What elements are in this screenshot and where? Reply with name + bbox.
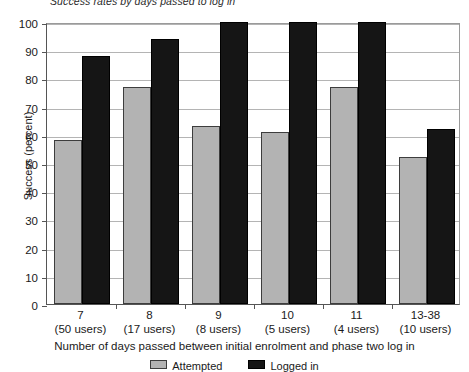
y-tick-label: 80: [8, 74, 38, 86]
x-tick-category: 7: [46, 309, 115, 323]
bar-attempted-13-38[interactable]: [399, 157, 427, 304]
bar-group: [392, 24, 461, 304]
legend-item-logged-in[interactable]: Logged in: [248, 360, 318, 372]
x-axis-title: Number of days passed between initial en…: [0, 340, 469, 352]
y-tick-label: 90: [8, 46, 38, 58]
bar-attempted-11[interactable]: [330, 87, 358, 304]
y-tick-label: 70: [8, 103, 38, 115]
bar-group: [323, 24, 392, 304]
bar-logged-in-8[interactable]: [151, 39, 179, 304]
x-tick-label-9: 9(8 users): [184, 309, 253, 336]
y-tick-label: 20: [8, 244, 38, 256]
x-tick-user-count: (50 users): [46, 323, 115, 337]
y-axis-title: Success (percent): [22, 76, 34, 236]
bar-group: [254, 24, 323, 304]
x-tick-label-13-38: 13-38(10 users): [391, 309, 460, 336]
x-tick-label-11: 11(4 users): [322, 309, 391, 336]
legend-item-attempted[interactable]: Attempted: [150, 360, 222, 372]
chart-title: Success rates by days passed to log in: [50, 0, 235, 7]
bar-group: [47, 24, 116, 304]
y-tick-mark: [42, 306, 47, 307]
y-tick-label: 100: [8, 18, 38, 30]
bar-group: [116, 24, 185, 304]
bar-logged-in-7[interactable]: [82, 56, 110, 304]
bar-logged-in-13-38[interactable]: [427, 129, 455, 304]
chart-legend: AttemptedLogged in: [0, 360, 469, 372]
x-tick-label-8: 8(17 users): [115, 309, 184, 336]
y-tick-label: 60: [8, 131, 38, 143]
bar-logged-in-9[interactable]: [220, 22, 248, 304]
x-tick-category: 8: [115, 309, 184, 323]
x-tick-user-count: (17 users): [115, 323, 184, 337]
y-tick-label: 40: [8, 187, 38, 199]
bar-group: [185, 24, 254, 304]
x-tick-category: 10: [253, 309, 322, 323]
x-tick-user-count: (4 users): [322, 323, 391, 337]
legend-label: Logged in: [270, 360, 318, 372]
legend-swatch-icon: [248, 360, 265, 369]
bar-attempted-7[interactable]: [54, 140, 82, 304]
bar-attempted-9[interactable]: [192, 126, 220, 304]
y-tick-label: 10: [8, 272, 38, 284]
legend-swatch-icon: [150, 360, 167, 369]
bar-attempted-8[interactable]: [123, 87, 151, 304]
y-tick-label: 30: [8, 215, 38, 227]
x-tick-user-count: (10 users): [391, 323, 460, 337]
plot-area: 0102030405060708090100: [46, 23, 460, 305]
bar-logged-in-10[interactable]: [289, 22, 317, 304]
x-tick-category: 9: [184, 309, 253, 323]
x-tick-user-count: (5 users): [253, 323, 322, 337]
x-tick-user-count: (8 users): [184, 323, 253, 337]
bar-logged-in-11[interactable]: [358, 22, 386, 304]
legend-label: Attempted: [172, 360, 222, 372]
x-tick-category: 11: [322, 309, 391, 323]
x-tick-category: 13-38: [391, 309, 460, 323]
x-tick-label-7: 7(50 users): [46, 309, 115, 336]
y-tick-label: 50: [8, 159, 38, 171]
y-tick-label: 0: [8, 300, 38, 312]
bar-attempted-10[interactable]: [261, 132, 289, 304]
x-tick-label-10: 10(5 users): [253, 309, 322, 336]
